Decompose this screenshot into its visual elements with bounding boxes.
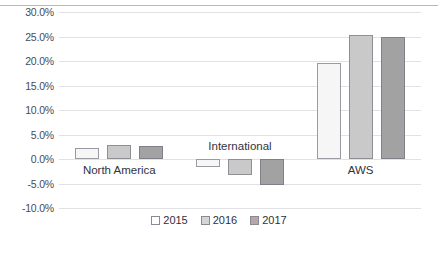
- legend-item-2015[interactable]: 2015: [151, 215, 187, 226]
- bar-north-america-2015: [75, 148, 99, 159]
- y-axis-tick-label: 10.0%: [0, 105, 54, 116]
- category-label-north-america: North America: [59, 165, 180, 177]
- y-axis-tick-label: 20.0%: [0, 56, 54, 67]
- legend-label-2017: 2017: [262, 215, 286, 226]
- y-axis-tick-label: 5.0%: [0, 129, 54, 140]
- category-label-aws: AWS: [300, 165, 421, 177]
- category-label-international: International: [180, 141, 301, 153]
- y-axis-tick-label: -10.0%: [0, 203, 54, 214]
- gridline--5: [59, 184, 421, 185]
- bar-international-2016: [228, 159, 252, 175]
- bar-international-2015: [196, 159, 220, 167]
- legend-swatch-icon-2017: [250, 216, 259, 225]
- bar-international-2017: [260, 159, 284, 185]
- y-axis-tick-label: 15.0%: [0, 80, 54, 91]
- bar-aws-2016: [349, 35, 373, 159]
- legend-item-2016[interactable]: 2016: [201, 215, 237, 226]
- gridline-30: [59, 12, 421, 13]
- bar-chart: 30.0%25.0%20.0%15.0%10.0%5.0%0.0%-5.0%-1…: [0, 0, 438, 253]
- chart-top-border: [0, 5, 438, 6]
- legend-item-2017[interactable]: 2017: [250, 215, 286, 226]
- y-axis-tick-label: 0.0%: [0, 154, 54, 165]
- gridline--10: [59, 208, 421, 209]
- y-axis-tick-label: 25.0%: [0, 31, 54, 42]
- bar-aws-2015: [317, 63, 341, 159]
- chart-legend: 201520162017: [0, 215, 438, 226]
- bar-north-america-2016: [107, 145, 131, 159]
- plot-area: 30.0%25.0%20.0%15.0%10.0%5.0%0.0%-5.0%-1…: [59, 12, 421, 208]
- bar-aws-2017: [381, 37, 405, 160]
- legend-swatch-icon-2016: [201, 216, 210, 225]
- legend-label-2015: 2015: [163, 215, 187, 226]
- y-axis-tick-label: 30.0%: [0, 7, 54, 18]
- legend-label-2016: 2016: [213, 215, 237, 226]
- legend-swatch-icon-2015: [151, 216, 160, 225]
- y-axis-tick-label: -5.0%: [0, 178, 54, 189]
- bar-north-america-2017: [139, 146, 163, 159]
